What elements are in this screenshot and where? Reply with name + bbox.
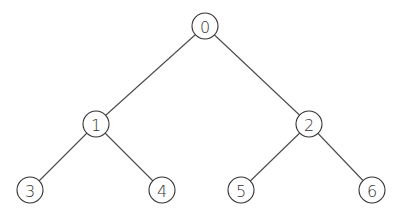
edge-1-3 [30, 124, 96, 190]
tree-node-5: 5 [228, 177, 254, 203]
node-label: 3 [25, 182, 35, 201]
edge-1-4 [96, 124, 162, 190]
tree-node-1: 1 [83, 111, 109, 137]
edges [30, 26, 372, 190]
tree-node-4: 4 [149, 177, 175, 203]
node-label: 5 [236, 182, 246, 201]
tree-node-3: 3 [17, 177, 43, 203]
edge-0-2 [205, 26, 309, 124]
node-label: 0 [200, 18, 210, 37]
edge-0-1 [96, 26, 205, 124]
tree-node-2: 2 [296, 111, 322, 137]
node-label: 1 [91, 116, 101, 135]
edge-2-6 [309, 124, 372, 190]
binary-tree-diagram: 0 1 2 3 4 5 6 [0, 0, 403, 221]
tree-node-0: 0 [192, 13, 218, 39]
tree-node-6: 6 [359, 177, 385, 203]
node-label: 6 [367, 182, 377, 201]
node-label: 4 [157, 182, 167, 201]
node-label: 2 [304, 116, 314, 135]
edge-2-5 [241, 124, 309, 190]
